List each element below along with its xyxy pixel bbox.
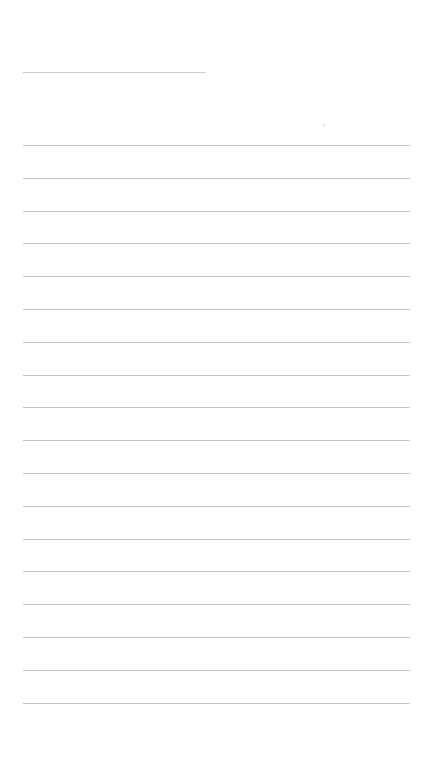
ruled-line	[23, 211, 410, 212]
ruled-line	[23, 276, 410, 277]
ruled-line	[23, 571, 410, 572]
header-line	[23, 72, 206, 73]
ruled-line	[23, 243, 410, 244]
ruled-line	[23, 440, 410, 441]
ruled-line	[23, 145, 410, 146]
ruled-line	[23, 539, 410, 540]
ruled-line	[23, 178, 410, 179]
ruled-line	[23, 407, 410, 408]
ruled-line	[23, 473, 410, 474]
speck	[323, 124, 325, 126]
ruled-line	[23, 670, 410, 671]
ruled-line	[23, 703, 410, 704]
ruled-line	[23, 637, 410, 638]
ruled-line	[23, 506, 410, 507]
ruled-line	[23, 604, 410, 605]
ruled-line	[23, 309, 410, 310]
ruled-line	[23, 375, 410, 376]
ruled-line	[23, 342, 410, 343]
